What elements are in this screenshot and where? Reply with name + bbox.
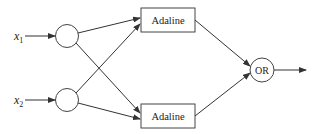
adaline-label-2: Adaline <box>151 111 185 122</box>
edge-in1-adaline2 <box>76 43 140 113</box>
edge-adaline2-or <box>195 73 250 116</box>
or-unit: OR <box>250 58 274 82</box>
adaline-unit-1: Adaline <box>141 8 195 32</box>
madaline-diagram: x1 x2 Adaline Adaline OR <box>0 0 320 134</box>
edge-in2-adaline1 <box>76 24 140 93</box>
input-node-1 <box>56 25 79 48</box>
edge-adaline1-or <box>195 20 250 66</box>
input-node-2 <box>56 89 79 112</box>
adaline-unit-2: Adaline <box>141 104 195 128</box>
or-label: OR <box>255 65 269 76</box>
edge-in1-adaline1 <box>78 18 140 33</box>
edge-in2-adaline2 <box>78 103 140 119</box>
input-label-x1: x1 <box>13 29 23 45</box>
adaline-label-1: Adaline <box>151 15 185 26</box>
input-label-x2: x2 <box>13 93 23 109</box>
